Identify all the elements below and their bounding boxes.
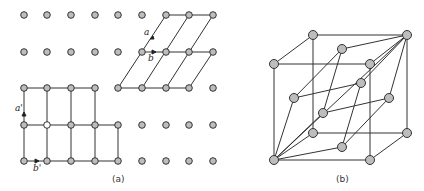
lattice-node [210, 12, 217, 19]
node [338, 143, 347, 152]
lattice-node [115, 49, 122, 56]
arrow-a-icon [150, 36, 154, 39]
lattice-node [115, 12, 122, 19]
lattice-diagram [0, 0, 424, 191]
lattice-node [210, 49, 217, 56]
lattice-node [21, 158, 28, 165]
lattice-node [210, 122, 217, 129]
node [270, 156, 279, 165]
lattice-node [44, 85, 51, 92]
lattice-node [68, 85, 75, 92]
lattice-node [139, 122, 146, 129]
lattice-node [44, 122, 51, 129]
lattice-node [44, 49, 51, 56]
lattice-node [115, 122, 122, 129]
lattice-node [92, 85, 99, 92]
label-b-prime: b' [33, 163, 41, 173]
node [338, 45, 347, 54]
lattice-node [44, 158, 51, 165]
lattice-node [21, 122, 28, 129]
lattice-node [21, 85, 28, 92]
lattice-node [92, 158, 99, 165]
node [319, 109, 328, 118]
node [270, 60, 279, 69]
lattice-node [68, 122, 75, 129]
node [309, 129, 318, 138]
lattice-node [163, 158, 170, 165]
lattice-node [139, 12, 146, 19]
lattice-node [139, 49, 146, 56]
node [403, 31, 412, 40]
lattice-node [186, 49, 193, 56]
lattice-node [68, 12, 75, 19]
lattice-node [210, 158, 217, 165]
node [403, 129, 412, 138]
lattice-node [163, 12, 170, 19]
label-a-prime: a' [15, 103, 23, 113]
lattice-node [21, 12, 28, 19]
node [366, 156, 375, 165]
lattice-node [44, 12, 51, 19]
lattice-node [68, 158, 75, 165]
node [309, 31, 318, 40]
label-b: b [148, 53, 154, 63]
lattice-node [21, 49, 28, 56]
lattice-node [139, 158, 146, 165]
lattice-node [186, 122, 193, 129]
lattice-node [186, 158, 193, 165]
lattice-node [115, 85, 122, 92]
label-a: a [144, 27, 149, 37]
lattice-node [115, 158, 122, 165]
lattice-node [210, 85, 217, 92]
figure-a-arrows [22, 36, 156, 163]
lattice-node [92, 49, 99, 56]
node [385, 94, 394, 103]
caption-a: (a) [112, 174, 125, 184]
lattice-node [186, 12, 193, 19]
lattice-node [163, 49, 170, 56]
node [290, 94, 299, 103]
node [357, 79, 366, 88]
caption-b: (b) [336, 174, 349, 184]
lattice-node [163, 122, 170, 129]
lattice-node [163, 85, 170, 92]
lattice-node [139, 85, 146, 92]
lattice-node [92, 122, 99, 129]
node [366, 60, 375, 69]
lattice-node [186, 85, 193, 92]
lattice-node [92, 12, 99, 19]
lattice-node [68, 49, 75, 56]
